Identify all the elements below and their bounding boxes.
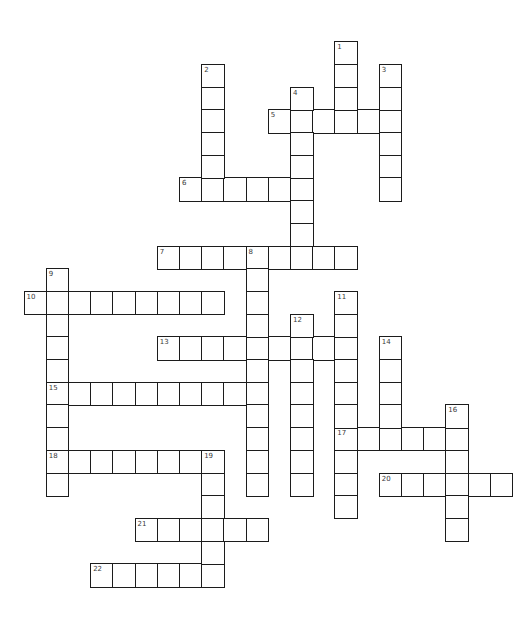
crossword-cell[interactable] bbox=[46, 291, 70, 315]
crossword-cell[interactable] bbox=[201, 336, 225, 360]
crossword-cell[interactable] bbox=[490, 473, 514, 497]
crossword-cell[interactable]: 13 bbox=[157, 336, 181, 360]
crossword-cell[interactable] bbox=[445, 518, 469, 542]
crossword-cell[interactable] bbox=[290, 473, 314, 497]
crossword-cell[interactable] bbox=[201, 563, 225, 587]
crossword-cell[interactable] bbox=[157, 382, 181, 406]
crossword-cell[interactable] bbox=[268, 246, 292, 270]
crossword-cell[interactable] bbox=[334, 359, 358, 383]
crossword-cell[interactable] bbox=[290, 404, 314, 428]
crossword-cell[interactable] bbox=[445, 427, 469, 451]
crossword-cell[interactable] bbox=[135, 382, 159, 406]
crossword-cell[interactable]: 21 bbox=[135, 518, 159, 542]
crossword-cell[interactable]: 3 bbox=[379, 64, 403, 88]
crossword-cell[interactable] bbox=[268, 336, 292, 360]
crossword-cell[interactable] bbox=[246, 268, 270, 292]
crossword-cell[interactable] bbox=[179, 518, 203, 542]
crossword-cell[interactable] bbox=[246, 404, 270, 428]
crossword-cell[interactable] bbox=[246, 291, 270, 315]
crossword-cell[interactable] bbox=[379, 155, 403, 179]
crossword-cell[interactable] bbox=[46, 427, 70, 451]
crossword-cell[interactable] bbox=[290, 382, 314, 406]
crossword-cell[interactable] bbox=[290, 336, 314, 360]
crossword-cell[interactable] bbox=[334, 109, 358, 133]
crossword-cell[interactable] bbox=[201, 382, 225, 406]
crossword-cell[interactable] bbox=[379, 382, 403, 406]
crossword-cell[interactable] bbox=[157, 450, 181, 474]
crossword-cell[interactable]: 7 bbox=[157, 246, 181, 270]
crossword-cell[interactable] bbox=[179, 291, 203, 315]
crossword-cell[interactable] bbox=[201, 132, 225, 156]
crossword-cell[interactable] bbox=[223, 177, 247, 201]
crossword-cell[interactable] bbox=[246, 427, 270, 451]
crossword-cell[interactable] bbox=[379, 87, 403, 111]
crossword-cell[interactable] bbox=[201, 473, 225, 497]
crossword-cell[interactable] bbox=[334, 495, 358, 519]
crossword-cell[interactable] bbox=[112, 450, 136, 474]
crossword-cell[interactable]: 5 bbox=[268, 109, 292, 133]
crossword-cell[interactable] bbox=[223, 518, 247, 542]
crossword-cell[interactable]: 10 bbox=[24, 291, 48, 315]
crossword-cell[interactable] bbox=[290, 450, 314, 474]
crossword-cell[interactable] bbox=[290, 246, 314, 270]
crossword-cell[interactable] bbox=[46, 314, 70, 338]
crossword-cell[interactable] bbox=[290, 200, 314, 224]
crossword-cell[interactable] bbox=[201, 155, 225, 179]
crossword-cell[interactable]: 6 bbox=[179, 177, 203, 201]
crossword-cell[interactable]: 17 bbox=[334, 427, 358, 451]
crossword-cell[interactable] bbox=[334, 404, 358, 428]
crossword-cell[interactable] bbox=[135, 563, 159, 587]
crossword-cell[interactable] bbox=[201, 541, 225, 565]
crossword-cell[interactable] bbox=[223, 246, 247, 270]
crossword-cell[interactable] bbox=[201, 495, 225, 519]
crossword-cell[interactable] bbox=[290, 427, 314, 451]
crossword-cell[interactable] bbox=[445, 495, 469, 519]
crossword-cell[interactable] bbox=[312, 336, 336, 360]
crossword-cell[interactable] bbox=[290, 109, 314, 133]
crossword-cell[interactable] bbox=[201, 518, 225, 542]
crossword-cell[interactable] bbox=[179, 450, 203, 474]
crossword-cell[interactable] bbox=[423, 427, 447, 451]
crossword-cell[interactable] bbox=[334, 450, 358, 474]
crossword-cell[interactable] bbox=[290, 132, 314, 156]
crossword-cell[interactable] bbox=[46, 473, 70, 497]
crossword-cell[interactable]: 19 bbox=[201, 450, 225, 474]
crossword-cell[interactable] bbox=[290, 223, 314, 247]
crossword-cell[interactable] bbox=[312, 246, 336, 270]
crossword-cell[interactable] bbox=[268, 177, 292, 201]
crossword-cell[interactable] bbox=[246, 473, 270, 497]
crossword-cell[interactable] bbox=[179, 246, 203, 270]
crossword-cell[interactable] bbox=[46, 336, 70, 360]
crossword-cell[interactable] bbox=[290, 155, 314, 179]
crossword-cell[interactable] bbox=[401, 427, 425, 451]
crossword-cell[interactable] bbox=[334, 87, 358, 111]
crossword-cell[interactable] bbox=[334, 64, 358, 88]
crossword-cell[interactable] bbox=[334, 314, 358, 338]
crossword-cell[interactable] bbox=[334, 336, 358, 360]
crossword-cell[interactable] bbox=[201, 177, 225, 201]
crossword-cell[interactable]: 2 bbox=[201, 64, 225, 88]
crossword-cell[interactable]: 18 bbox=[46, 450, 70, 474]
crossword-cell[interactable] bbox=[135, 450, 159, 474]
crossword-cell[interactable]: 20 bbox=[379, 473, 403, 497]
crossword-cell[interactable] bbox=[246, 336, 270, 360]
crossword-cell[interactable] bbox=[312, 109, 336, 133]
crossword-cell[interactable] bbox=[468, 473, 492, 497]
crossword-cell[interactable] bbox=[179, 336, 203, 360]
crossword-cell[interactable] bbox=[135, 291, 159, 315]
crossword-cell[interactable] bbox=[445, 473, 469, 497]
crossword-cell[interactable]: 8 bbox=[246, 246, 270, 270]
crossword-cell[interactable] bbox=[157, 291, 181, 315]
crossword-cell[interactable] bbox=[334, 246, 358, 270]
crossword-cell[interactable]: 1 bbox=[334, 41, 358, 65]
crossword-cell[interactable] bbox=[357, 427, 381, 451]
crossword-cell[interactable] bbox=[379, 132, 403, 156]
crossword-cell[interactable] bbox=[246, 382, 270, 406]
crossword-cell[interactable] bbox=[379, 404, 403, 428]
crossword-cell[interactable] bbox=[201, 87, 225, 111]
crossword-cell[interactable] bbox=[46, 404, 70, 428]
crossword-cell[interactable] bbox=[246, 450, 270, 474]
crossword-cell[interactable]: 4 bbox=[290, 87, 314, 111]
crossword-cell[interactable] bbox=[334, 473, 358, 497]
crossword-cell[interactable] bbox=[201, 109, 225, 133]
